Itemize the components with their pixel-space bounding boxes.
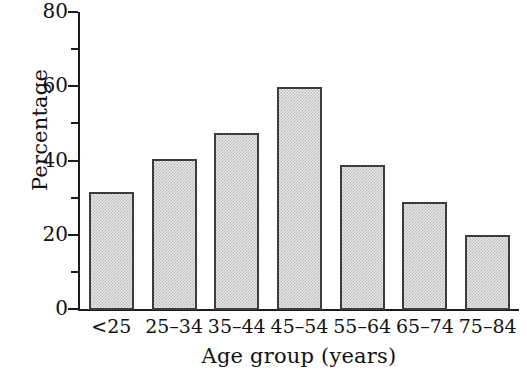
y-tick-label-wrap: 80 — [0, 1, 68, 21]
bar — [277, 87, 322, 310]
x-tick-label: 75–84 — [456, 314, 519, 338]
y-tick-label: 40 — [6, 150, 68, 170]
y-tick-label-wrap: 60 — [0, 75, 68, 95]
x-tick-label: 45–54 — [268, 314, 331, 338]
y-tick-major — [68, 160, 78, 162]
x-tick-label: 25–34 — [143, 314, 206, 338]
y-tick-label-wrap: 0 — [0, 298, 68, 318]
y-tick-label: 80 — [6, 1, 68, 21]
bar — [152, 159, 197, 310]
x-tick-label: 35–44 — [205, 314, 268, 338]
y-tick-label: 20 — [6, 224, 68, 244]
y-axis-line — [78, 12, 80, 311]
y-tick-major — [68, 234, 78, 236]
y-tick-major — [68, 85, 78, 87]
y-tick-label: 0 — [6, 298, 68, 318]
x-axis-title: Age group (years) — [78, 344, 520, 368]
bar-chart: Percentage 020406080 <2525–3435–4445–545… — [0, 0, 527, 386]
y-tick-minor — [71, 122, 78, 124]
y-axis-title: Percentage — [28, 30, 52, 230]
x-tick-label: 65–74 — [394, 314, 457, 338]
bar — [340, 165, 385, 310]
y-tick-label-wrap: 40 — [0, 150, 68, 170]
y-tick-minor — [71, 271, 78, 273]
y-tick-label-wrap: 20 — [0, 224, 68, 244]
y-tick-label: 60 — [6, 75, 68, 95]
bar — [89, 192, 134, 310]
bar — [214, 133, 259, 310]
y-tick-minor — [71, 48, 78, 50]
y-tick-major — [68, 308, 78, 310]
bar — [465, 235, 510, 310]
y-tick-minor — [71, 197, 78, 199]
x-tick-label: 55–64 — [331, 314, 394, 338]
y-tick-major — [68, 11, 78, 13]
bar — [402, 202, 447, 310]
x-tick-label: <25 — [80, 314, 143, 338]
